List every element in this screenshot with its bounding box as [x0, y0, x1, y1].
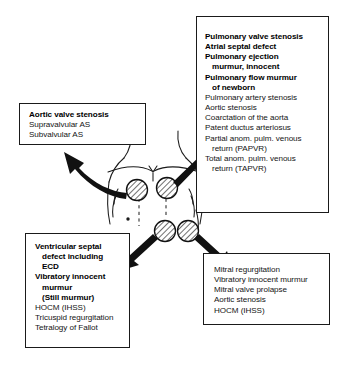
arrow-to-aortic-box — [64, 152, 127, 199]
torso-left-flank-line — [108, 182, 110, 224]
diagram-canvas: Pulmonary valve stenosisAtrial septal de… — [0, 0, 346, 365]
diagnosis-line: Mitral valve prolapse — [214, 285, 329, 295]
diagnosis-line: return (PAPVR) — [205, 144, 328, 154]
diagnosis-line: return (TAPVR) — [205, 164, 328, 174]
lower-left-sternal-border-list: Ventricular septaldefect includingECDVib… — [35, 242, 129, 333]
diagnosis-line: HOCM (IHSS) — [35, 303, 129, 313]
diagnosis-line: Pulmonary artery stenosis — [205, 93, 328, 103]
diagnosis-line: Pulmonary flow murmur — [205, 73, 328, 83]
diagnosis-line: murmur, innocent — [205, 62, 328, 72]
diagnosis-line: murmur — [35, 283, 129, 293]
diagnosis-line: Tetralogy of Fallot — [35, 323, 129, 333]
diagnosis-line: HOCM (IHSS) — [214, 306, 329, 316]
diagnosis-line: (Still murmur) — [35, 293, 129, 303]
diagnosis-line: Pulmonary valve stenosis — [205, 32, 328, 42]
lower-left-sternal-border-box: Ventricular septaldefect includingECDVib… — [25, 233, 130, 348]
diagnosis-line: of newborn — [205, 83, 328, 93]
diagnosis-line: Vibratory innocent murmur — [214, 275, 329, 285]
diagnosis-line: Subvalvular AS — [29, 130, 145, 140]
auscultation-circle-lower-left-sternal-border — [155, 221, 176, 242]
suprasternal-notch-line — [149, 166, 157, 172]
torso-left-side-line — [109, 158, 124, 182]
diagnosis-line: Patent ductus arteriosus — [205, 123, 328, 133]
diagnosis-line: Total anom. pulm. venous — [205, 154, 328, 164]
diagnosis-line: Pulmonary ejection — [205, 52, 328, 62]
torso-right-shoulder-line — [178, 131, 186, 158]
diagnosis-line: Aortic valve stenosis — [29, 110, 145, 120]
diagnosis-line: Mitral regurgitation — [214, 265, 329, 275]
diagnosis-line: Ventricular septal — [35, 242, 129, 252]
aortic-area-list: Aortic valve stenosisSupravalvular ASSub… — [29, 110, 145, 140]
apex-area-box: Mitral regurgitationVibratory innocent m… — [203, 253, 330, 325]
apex-area-list: Mitral regurgitationVibratory innocent m… — [214, 265, 329, 316]
diagnosis-line: Tricuspid regurgitation — [35, 313, 129, 323]
diagnosis-line: Vibratory innocent — [35, 272, 129, 282]
diagnosis-line: ECD — [35, 262, 129, 272]
nipple-marker — [126, 217, 129, 220]
auscultation-circle-pulmonary-area — [157, 178, 178, 199]
diagnosis-line: Aortic stenosis — [205, 103, 328, 113]
aortic-area-box: Aortic valve stenosisSupravalvular ASSub… — [19, 103, 146, 145]
pulmonary-area-list: Pulmonary valve stenosisAtrial septal de… — [205, 32, 328, 174]
diagnosis-line: Partial anom. pulm. venous — [205, 134, 328, 144]
diagnosis-line: Coarctation of the aorta — [205, 113, 328, 123]
diagnosis-line: defect including — [35, 252, 129, 262]
diagnosis-line: Supravalvular AS — [29, 120, 145, 130]
pulmonary-area-box: Pulmonary valve stenosisAtrial septal de… — [196, 16, 329, 213]
auscultation-circle-aortic-area — [127, 180, 148, 201]
diagnosis-line: Atrial septal defect — [205, 42, 328, 52]
diagnosis-line: Aortic stenosis — [214, 295, 329, 305]
